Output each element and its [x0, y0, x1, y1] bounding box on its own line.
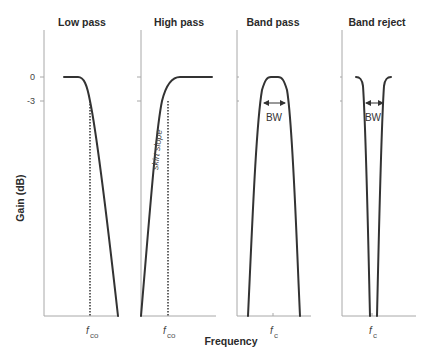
axes	[44, 30, 119, 316]
x-marker-sub: co	[90, 331, 99, 340]
response-curve	[64, 77, 118, 316]
bw-label: BW	[365, 112, 382, 123]
bw-label: BW	[266, 112, 283, 123]
x-marker-sub: c	[373, 331, 377, 340]
x-marker-sub: c	[274, 331, 278, 340]
x-marker-sub: co	[167, 331, 176, 340]
panel-band-reject: Band reject BW f c	[340, 16, 416, 340]
panel-title: Band reject	[348, 16, 406, 28]
x-axis-label: Frequency	[204, 335, 257, 347]
axes	[237, 30, 311, 316]
axes	[342, 30, 416, 316]
filter-types-diagram: Gain (dB) 0 -3 Low pass f co High pass s…	[0, 0, 423, 363]
y-tick-0: 0	[30, 72, 35, 82]
y-tick-minus3: -3	[27, 96, 35, 106]
panel-title: High pass	[154, 16, 204, 28]
skirt-slope-label: skirt slope	[150, 129, 164, 170]
panel-title: Band pass	[246, 16, 299, 28]
panel-title: Low pass	[58, 16, 106, 28]
panel-band-pass: Band pass BW f c	[237, 16, 311, 340]
panel-low-pass: Low pass f co	[40, 16, 119, 340]
y-axis-label: Gain (dB)	[14, 174, 26, 221]
panel-high-pass: High pass skirt slope f co	[137, 16, 216, 340]
response-curve	[141, 77, 212, 316]
